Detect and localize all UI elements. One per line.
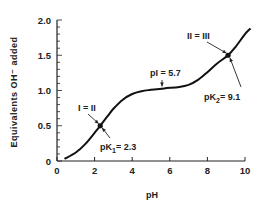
arrowhead-icon — [230, 58, 233, 62]
arrowhead-icon — [160, 82, 164, 86]
annotations: I = IIpK1= 2.3pI = 5.7II = IIIpK2= 9.1 — [78, 31, 241, 154]
y-tick-label: 0.5 — [38, 120, 52, 131]
y-axis-label: Equivalents OH⁻ added — [9, 36, 19, 147]
x-axis-label: pH — [146, 190, 158, 200]
x-tick-label: 6 — [167, 165, 172, 176]
x-tick-label: 8 — [205, 165, 210, 176]
x-tick-label: 4 — [130, 165, 136, 176]
x-tick-label: 2 — [92, 165, 97, 176]
pk2-arrow — [230, 58, 241, 87]
y-tick-label: 1.0 — [38, 85, 51, 96]
x-tick-label: 0 — [54, 165, 59, 176]
pi-label: pI = 5.7 — [150, 68, 181, 78]
pk1-label: pK1= 2.3 — [100, 142, 136, 154]
x-tick-label: 10 — [240, 165, 251, 176]
titration-chart: 00.51.01.52.0 0246810 I = IIpK1= 2.3pI =… — [0, 0, 274, 208]
equivalence-label-2: II = III — [187, 31, 210, 41]
y-tick-label: 0 — [46, 156, 51, 167]
y-tick-label: 2.0 — [38, 15, 51, 26]
x-ticks: 0246810 — [54, 157, 250, 176]
y-ticks: 00.51.01.52.0 — [38, 15, 52, 167]
equivalence-label-1: I = II — [78, 103, 96, 113]
pk2-label: pK2= 9.1 — [204, 92, 240, 104]
y-tick-label: 1.5 — [38, 50, 52, 61]
